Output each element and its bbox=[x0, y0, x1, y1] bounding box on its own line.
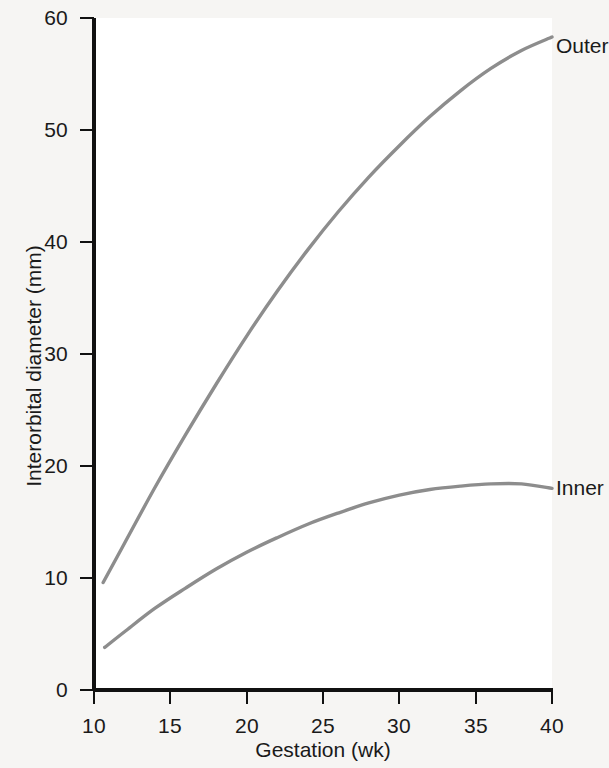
x-tick-label-20: 20 bbox=[235, 714, 259, 738]
series-label-inner: Inner bbox=[556, 476, 604, 500]
x-tick-label-15: 15 bbox=[158, 714, 182, 738]
series-label-outer: Outer bbox=[556, 34, 609, 58]
y-tick-marks bbox=[80, 18, 94, 690]
x-tick-marks bbox=[94, 690, 552, 704]
x-tick-label-40: 40 bbox=[540, 714, 564, 738]
plot-background bbox=[94, 18, 552, 690]
y-tick-label-0: 0 bbox=[18, 678, 68, 702]
x-tick-label-25: 25 bbox=[311, 714, 335, 738]
x-tick-label-35: 35 bbox=[464, 714, 488, 738]
x-tick-label-10: 10 bbox=[82, 714, 106, 738]
x-tick-label-30: 30 bbox=[387, 714, 411, 738]
y-axis-title: Interorbital diameter (mm) bbox=[22, 206, 46, 526]
y-tick-label-10: 10 bbox=[18, 566, 68, 590]
y-tick-label-60: 60 bbox=[18, 6, 68, 30]
y-tick-label-50: 50 bbox=[18, 118, 68, 142]
x-axis-title: Gestation (wk) bbox=[93, 738, 553, 762]
